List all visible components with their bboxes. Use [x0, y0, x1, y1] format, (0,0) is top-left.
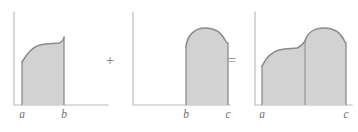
- panel-middle-label-c: c: [225, 108, 230, 120]
- panel-right-shaded-area: [262, 28, 346, 105]
- equals-operator: =: [228, 52, 236, 68]
- panel-right: a c: [255, 12, 352, 120]
- panel-left-label-a: a: [19, 108, 25, 120]
- panel-middle: b c: [133, 12, 231, 120]
- panel-right-label-a: a: [259, 108, 265, 120]
- panel-middle-label-b: b: [183, 108, 189, 120]
- panel-left-shaded-area: [22, 37, 64, 105]
- panel-left: a b: [14, 12, 108, 120]
- figure-canvas: a b + b c = a c: [0, 0, 358, 132]
- integral-additivity-figure: a b + b c = a c: [0, 0, 358, 132]
- panel-left-label-b: b: [61, 108, 67, 120]
- plus-operator: +: [106, 52, 114, 68]
- panel-right-label-c: c: [343, 108, 348, 120]
- panel-middle-shaded-area: [186, 28, 228, 105]
